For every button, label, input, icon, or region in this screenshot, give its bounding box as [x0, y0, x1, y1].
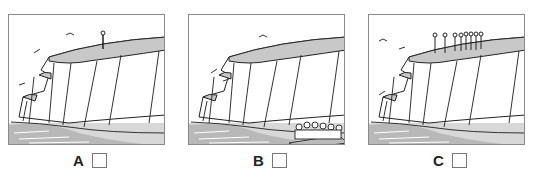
panel-b-image: [188, 14, 345, 145]
cliff-illustration: [9, 15, 165, 145]
cliff-illustration: [189, 15, 345, 145]
choice-c-checkbox[interactable]: [452, 153, 467, 168]
choice-c-label: C: [433, 152, 444, 169]
choice-a-label: A: [73, 152, 84, 169]
panel-a-image: [8, 14, 165, 145]
choice-b: B: [253, 152, 287, 169]
panel-c-image: [368, 14, 525, 145]
choice-c: C: [433, 152, 467, 169]
choice-a: A: [73, 152, 107, 169]
choice-b-checkbox[interactable]: [272, 153, 287, 168]
cliff-illustration: [369, 15, 525, 145]
choice-a-checkbox[interactable]: [92, 153, 107, 168]
choice-b-label: B: [253, 152, 264, 169]
